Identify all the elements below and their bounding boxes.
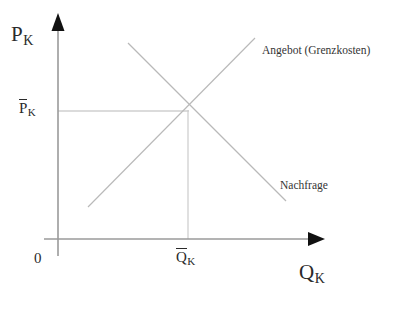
x-axis-label: QK <box>299 262 325 286</box>
x-axis-label-subscript: K <box>315 271 325 286</box>
supply-curve <box>88 38 255 207</box>
equilibrium-quantity-overbar: Q <box>176 250 187 265</box>
equilibrium-price-subscript: K <box>28 106 36 118</box>
equilibrium-quantity-label: QK <box>176 250 195 267</box>
equilibrium-quantity-main: Q <box>176 249 187 265</box>
demand-curve <box>128 43 286 201</box>
y-axis-label: PK <box>11 24 33 48</box>
demand-curve-label: Nachfrage <box>280 180 328 192</box>
supply-curve-label: Angebot (Grenzkosten) <box>262 45 370 57</box>
origin-label: 0 <box>34 251 42 266</box>
y-axis-arrowhead <box>52 13 65 31</box>
y-axis-label-subscript: K <box>23 33 33 48</box>
x-axis-arrowhead <box>308 232 325 246</box>
supply-demand-figure: PK PK Angebot (Grenzkosten) Nachfrage 0 … <box>0 0 396 309</box>
equilibrium-price-label: PK <box>19 101 36 118</box>
x-axis-label-main: Q <box>299 260 314 284</box>
y-axis-label-main: P <box>11 22 23 46</box>
equilibrium-price-overbar: P <box>19 101 27 116</box>
equilibrium-quantity-subscript: K <box>187 255 195 267</box>
equilibrium-price-main: P <box>19 100 27 116</box>
